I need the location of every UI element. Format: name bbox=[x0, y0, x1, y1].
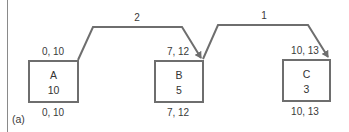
node-a-duration: 10 bbox=[30, 84, 77, 96]
edge-lag-a-b: 2 bbox=[134, 12, 140, 23]
node-b-duration: 5 bbox=[156, 84, 202, 96]
node-b-name: B bbox=[156, 69, 202, 81]
node-a-late-times: 0, 10 bbox=[42, 107, 64, 118]
node-c: C 3 bbox=[282, 59, 331, 102]
node-a: A 10 bbox=[28, 60, 79, 103]
node-b: B 5 bbox=[154, 60, 204, 103]
node-c-duration: 3 bbox=[284, 83, 329, 95]
figure-label: (a) bbox=[12, 114, 25, 125]
node-c-name: C bbox=[284, 68, 329, 80]
node-a-name: A bbox=[30, 69, 77, 81]
edge-lag-b-c: 1 bbox=[261, 10, 267, 21]
node-a-early-times: 0, 10 bbox=[42, 46, 64, 57]
node-c-late-times: 10, 13 bbox=[291, 106, 319, 117]
node-b-early-times: 7, 12 bbox=[167, 46, 189, 57]
node-c-early-times: 10, 13 bbox=[291, 45, 319, 56]
node-b-late-times: 7, 12 bbox=[167, 107, 189, 118]
